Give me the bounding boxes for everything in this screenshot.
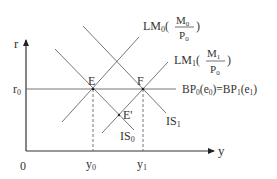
is1-curve	[83, 26, 166, 113]
point-e-prime-label: E'	[123, 108, 133, 122]
point-f-dot	[142, 88, 145, 91]
svg-text:P0: P0	[210, 63, 220, 77]
x-axis-label: y	[218, 143, 225, 158]
is1-label: IS1	[166, 114, 181, 129]
origin-label: 0	[20, 159, 26, 173]
svg-text:M0: M0	[176, 14, 190, 28]
lm1-curve	[102, 62, 168, 133]
svg-text:LM0(: LM0(	[143, 19, 169, 34]
y-axis-label: r	[14, 36, 19, 51]
lm0-label: LM0( M0 P0 )	[143, 14, 200, 43]
svg-text:): )	[196, 19, 200, 33]
is0-label: IS0	[120, 129, 135, 144]
svg-text:LM1(: LM1(	[174, 53, 200, 68]
svg-text:M1: M1	[207, 47, 221, 61]
point-f-label: F	[137, 74, 144, 88]
y1-label: y1	[137, 157, 147, 172]
point-e-label: E	[88, 74, 95, 88]
y0-label: y0	[86, 157, 96, 172]
svg-text:): )	[227, 53, 231, 67]
is-lm-bp-diagram: r y 0 r0 y0 y1 E F E' IS0 IS1 LM0( M0 P0…	[0, 0, 277, 179]
r0-label: r0	[13, 82, 21, 97]
point-e-prime-dot	[118, 114, 120, 116]
svg-text:P0: P0	[179, 29, 189, 43]
bp-label: BP0(e0)=BP1(e1)	[182, 83, 257, 97]
point-e-dot	[92, 88, 95, 91]
lm1-label: LM1( M1 P0 )	[174, 47, 231, 77]
